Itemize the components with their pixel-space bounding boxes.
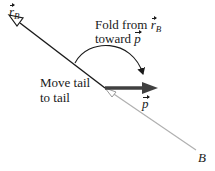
rB-subscript: B — [14, 11, 20, 21]
p-label: p — [142, 97, 149, 111]
fold-caption-text: Fold from — [95, 17, 151, 32]
original-rB-line — [105, 88, 196, 150]
p-arrowhead-icon — [142, 82, 158, 94]
move-caption-line1: Move tail — [40, 76, 90, 90]
fold-p-symbol: p — [134, 32, 141, 46]
fold-arc — [75, 45, 143, 74]
p-symbol: p — [142, 97, 149, 111]
point-B-label: B — [198, 151, 206, 165]
rB-symbol: r — [9, 5, 14, 19]
rB-label: rB — [9, 5, 20, 23]
move-caption-line2: to tail — [40, 91, 70, 105]
fold-caption-line2: toward p — [95, 32, 141, 46]
fold-rB-symbol: r — [151, 18, 156, 32]
fold-rB-subscript: B — [156, 24, 162, 34]
fold-caption-text-2: toward — [95, 31, 134, 46]
